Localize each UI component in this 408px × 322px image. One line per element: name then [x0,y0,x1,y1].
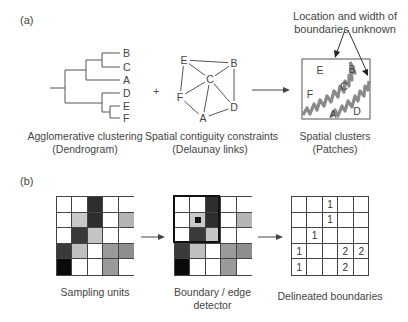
boundary-detector-caption: Boundary / edge detector [160,286,265,312]
arrow-right-icon [141,234,165,240]
boundary-detector-caption-line-2: detector [160,299,265,312]
boundary-detector-caption-line-1: Boundary / edge [160,286,265,299]
delineated-caption: Delineated boundaries [270,290,390,303]
sampling-units-caption: Sampling units [45,286,145,299]
arrow-right-icon [258,234,283,240]
panel-b-arrows [0,0,408,322]
